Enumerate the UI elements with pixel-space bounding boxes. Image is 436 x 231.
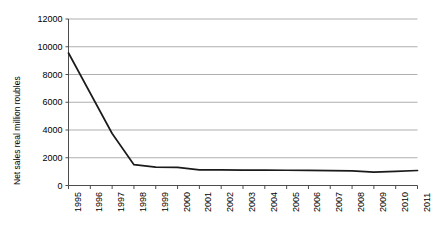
x-tick-label: 1996 <box>94 191 104 211</box>
x-tick-label: 1998 <box>138 191 148 211</box>
x-tick-label: 2006 <box>312 191 322 211</box>
x-tick-label: 2003 <box>247 191 257 211</box>
data-series-line <box>69 53 418 172</box>
y-tick-label: 12000 <box>0 14 63 24</box>
x-tick-label: 2001 <box>203 191 213 211</box>
x-tick-label: 2005 <box>291 191 301 211</box>
y-tick-label: 4000 <box>0 125 63 135</box>
y-tick-label: 10000 <box>0 42 63 52</box>
x-tick-label: 2010 <box>400 191 410 211</box>
x-tick-label: 1999 <box>160 191 170 211</box>
y-tick-label: 6000 <box>0 97 63 107</box>
x-tick-label: 2000 <box>182 191 192 211</box>
x-tick-label: 1995 <box>73 191 83 211</box>
x-tick-label: 2002 <box>225 191 235 211</box>
x-tick-label: 1997 <box>116 191 126 211</box>
line-chart: Net sales real million roubles 020004000… <box>0 0 436 231</box>
y-tick-label: 0 <box>0 181 63 191</box>
y-tick-label: 8000 <box>0 70 63 80</box>
x-tick-label: 2008 <box>356 191 366 211</box>
x-tick-label: 2007 <box>334 191 344 211</box>
plot-canvas <box>0 0 436 231</box>
y-tick-label: 2000 <box>0 153 63 163</box>
x-tick-label: 2009 <box>378 191 388 211</box>
x-tick-label: 2011 <box>422 192 432 211</box>
x-tick-label: 2004 <box>269 191 279 211</box>
